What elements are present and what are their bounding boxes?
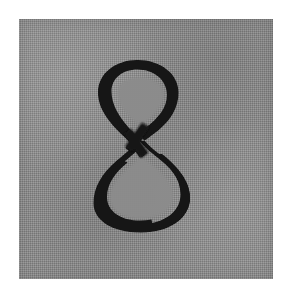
digit-eight-icon: [19, 19, 273, 279]
scanned-gray-card: [19, 19, 273, 279]
image-canvas: [0, 0, 291, 298]
glyph-container: [19, 19, 273, 279]
